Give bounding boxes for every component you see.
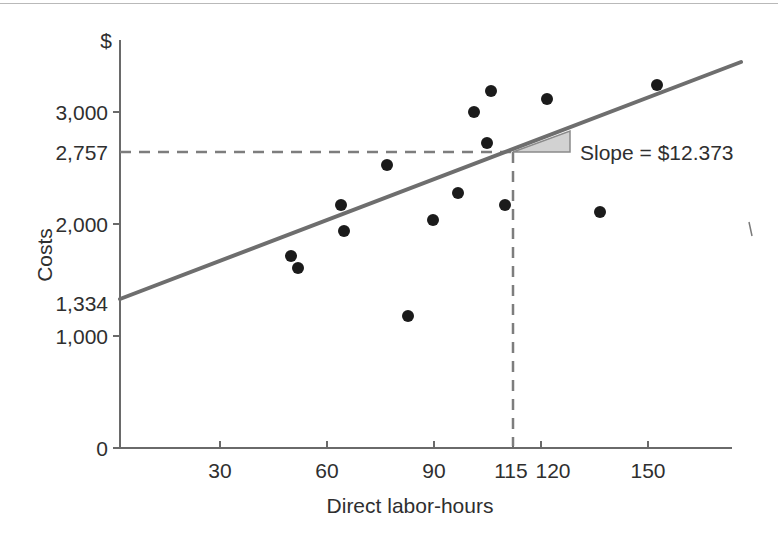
cost-estimation-scatter-chart: $ 3,000 2,757 2,000 1,334 1,000 0 30 60 …	[0, 0, 778, 540]
data-point	[335, 199, 347, 211]
y-tick-label-1000: 1,000	[55, 325, 108, 348]
data-point	[468, 106, 480, 118]
chart-canvas: $ 3,000 2,757 2,000 1,334 1,000 0 30 60 …	[0, 0, 778, 540]
y-tick-label-2000: 2,000	[55, 213, 108, 236]
data-point	[485, 85, 497, 97]
y-tick-label-3000: 3,000	[55, 101, 108, 124]
x-tick-label-90: 90	[422, 459, 445, 482]
x-tick-label-120: 120	[535, 459, 570, 482]
x-tick-label-150: 150	[630, 459, 665, 482]
data-point	[285, 250, 297, 262]
data-point	[427, 214, 439, 226]
right-margin-mark	[749, 222, 752, 236]
y-axis-title: Costs	[33, 228, 56, 282]
y-tick-label-1334: 1,334	[55, 292, 108, 315]
data-point	[481, 137, 493, 149]
slope-triangle	[513, 131, 570, 152]
x-tick-label-60: 60	[315, 459, 338, 482]
y-tick-label-unit: $	[100, 29, 112, 52]
y-tick-label-2757: 2,757	[55, 141, 108, 164]
x-tick-marks	[220, 441, 648, 448]
x-tick-label-30: 30	[208, 459, 231, 482]
data-point	[338, 225, 350, 237]
y-tick-label-0: 0	[96, 437, 108, 460]
data-point	[651, 79, 663, 91]
x-tick-label-115: 115	[494, 459, 527, 482]
data-point	[499, 199, 511, 211]
data-point	[292, 262, 304, 274]
data-point	[594, 206, 606, 218]
data-point	[381, 159, 393, 171]
data-point	[452, 187, 464, 199]
data-point	[541, 93, 553, 105]
x-axis-title: Direct labor-hours	[327, 494, 494, 517]
regression-line	[120, 62, 741, 299]
data-point	[402, 310, 414, 322]
slope-annotation-label: Slope = $12.373	[580, 141, 734, 164]
y-tick-marks	[113, 112, 120, 448]
